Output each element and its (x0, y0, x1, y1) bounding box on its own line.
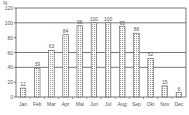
value-label: 100 (90, 16, 99, 22)
chart-canvas: 020406080100120%12Jan39Feb63Mar84Apr96Ma… (0, 0, 189, 115)
x-tick-label: Feb (33, 101, 42, 107)
x-tick-label: Jan (19, 101, 27, 107)
y-tick-label: 40 (7, 64, 13, 70)
x-tick-label: Jun (90, 101, 98, 107)
y-tick-label: 80 (7, 35, 13, 41)
value-label: 63 (49, 43, 55, 49)
y-tick-label: 0 (10, 94, 13, 100)
value-label: 95 (119, 20, 125, 26)
x-tick-label: Nov (160, 101, 169, 107)
bar-chart: 020406080100120%12Jan39Feb63Mar84Apr96Ma… (0, 0, 189, 115)
value-label: 39 (34, 61, 40, 67)
y-tick-label: 100 (5, 20, 14, 26)
bar-okt (148, 58, 154, 97)
y-axis-label: % (3, 0, 8, 6)
value-label: 100 (104, 16, 113, 22)
value-label: 52 (148, 51, 154, 57)
value-label: 12 (20, 81, 26, 87)
value-label: 86 (134, 26, 140, 32)
value-label: 96 (77, 19, 83, 25)
bar-jul (105, 23, 111, 97)
x-tick-label: Sep (132, 101, 141, 107)
bar-feb (35, 68, 41, 97)
bar-sep (134, 33, 140, 97)
y-tick-label: 60 (7, 50, 13, 56)
x-tick-label: Dec (174, 101, 183, 107)
x-tick-label: Aug (118, 101, 127, 107)
bar-aug (120, 27, 126, 97)
value-label: 15 (162, 79, 168, 85)
bar-jan (20, 88, 26, 97)
x-tick-label: Okt (147, 101, 155, 107)
x-tick-label: Apr (62, 101, 70, 107)
y-tick-label: 20 (7, 79, 13, 85)
bar-nov (162, 86, 168, 97)
x-tick-label: Jul (105, 101, 111, 107)
bar-apr (63, 35, 68, 97)
x-tick-label: Mai (76, 101, 84, 107)
bars (20, 23, 181, 97)
value-label: 84 (63, 28, 69, 34)
x-tick-label: Mar (47, 101, 56, 107)
bar-jun (91, 23, 97, 97)
bar-mar (49, 50, 55, 97)
bar-mai (77, 26, 83, 97)
gridlines (16, 8, 186, 97)
bar-dec (176, 93, 182, 97)
value-label: 6 (178, 86, 181, 92)
